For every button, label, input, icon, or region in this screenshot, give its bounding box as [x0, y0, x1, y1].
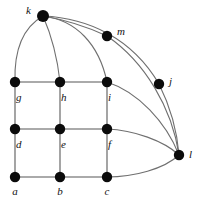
graph-canvas: abcdefghijklm	[0, 0, 201, 202]
edge-c-l	[107, 155, 179, 177]
node-label-d: d	[16, 138, 22, 150]
node-i	[102, 77, 112, 87]
node-label-f: f	[108, 138, 113, 150]
node-label-a: a	[12, 185, 18, 197]
node-g	[10, 77, 20, 87]
node-label-h: h	[61, 91, 67, 103]
edge-k-m	[43, 16, 107, 36]
node-k	[37, 10, 49, 22]
edge-i-l	[107, 82, 179, 155]
node-label-k: k	[26, 4, 32, 16]
node-label-c: c	[105, 185, 110, 197]
node-j	[154, 79, 164, 89]
node-layer	[10, 10, 184, 182]
node-d	[10, 124, 20, 134]
node-f	[102, 124, 112, 134]
node-l	[174, 150, 184, 160]
edge-k-h	[43, 16, 60, 82]
edge-m-l	[107, 36, 179, 155]
node-c	[102, 172, 112, 182]
node-a	[10, 172, 20, 182]
edge-k-g	[15, 16, 43, 82]
node-m	[102, 31, 112, 41]
curve-edge-layer	[15, 16, 179, 177]
edge-j-l	[159, 84, 179, 155]
edge-k-j	[43, 16, 159, 84]
node-label-layer: abcdefghijklm	[12, 4, 192, 197]
node-e	[55, 124, 65, 134]
graph-figure: abcdefghijklm	[0, 0, 201, 202]
edge-k-i	[43, 16, 107, 82]
node-label-l: l	[189, 148, 192, 160]
node-label-g: g	[16, 91, 22, 103]
node-label-b: b	[57, 185, 63, 197]
node-h	[55, 77, 65, 87]
node-b	[55, 172, 65, 182]
node-label-i: i	[108, 91, 111, 103]
node-label-m: m	[117, 25, 125, 37]
node-label-e: e	[61, 138, 66, 150]
node-label-j: j	[167, 75, 172, 87]
